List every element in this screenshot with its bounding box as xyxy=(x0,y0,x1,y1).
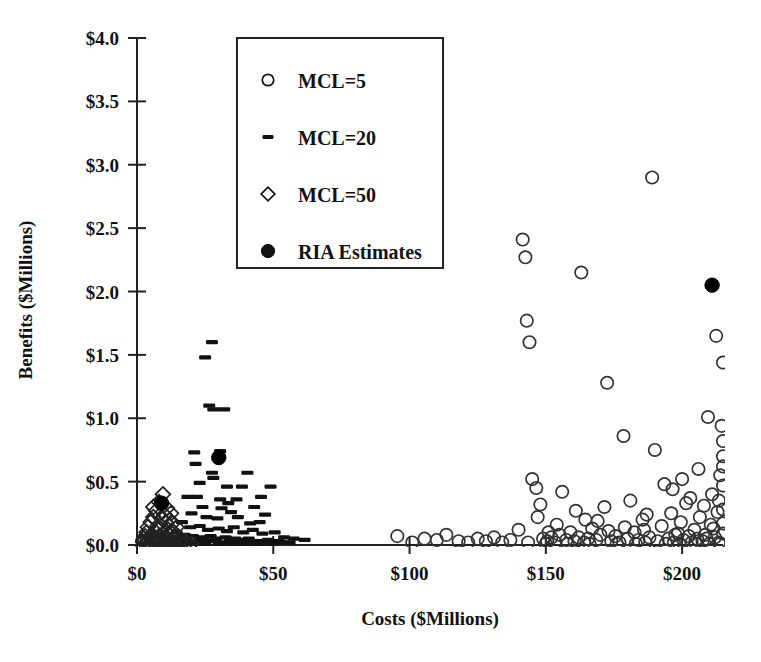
point-open-circle xyxy=(698,500,710,512)
point-filled-circle xyxy=(261,244,274,257)
point-filled-circle xyxy=(705,278,719,292)
point-dash xyxy=(211,516,223,520)
point-dash xyxy=(254,520,266,524)
legend-item-label: RIA Estimates xyxy=(298,241,422,263)
x-axis-tick-labels: $0$50$100$150$200 xyxy=(128,563,702,584)
point-dash xyxy=(191,495,203,499)
point-open-circle xyxy=(715,420,727,432)
point-dash xyxy=(206,340,218,344)
point-dash xyxy=(269,530,281,534)
point-open-circle xyxy=(705,519,717,531)
legend: MCL=5MCL=20MCL=50RIA Estimates xyxy=(237,38,443,268)
point-dash xyxy=(256,531,268,535)
point-open-circle xyxy=(717,356,729,368)
point-dash xyxy=(218,407,230,411)
point-open-circle xyxy=(619,521,631,533)
x-tick-label: $200 xyxy=(663,563,701,584)
point-dash xyxy=(221,485,233,489)
point-open-circle xyxy=(523,336,535,348)
y-tick-label: $0.0 xyxy=(86,535,119,556)
y-tick-label: $0.5 xyxy=(86,472,119,493)
point-open-circle xyxy=(440,529,452,541)
point-dash xyxy=(241,471,253,475)
point-open-circle xyxy=(579,513,591,525)
point-open-circle xyxy=(675,516,687,528)
point-open-circle xyxy=(391,530,403,542)
point-open-circle xyxy=(655,520,667,532)
y-tick-label: $3.0 xyxy=(86,155,119,176)
point-dash xyxy=(213,542,225,546)
point-dash xyxy=(221,529,233,533)
point-open-circle xyxy=(556,486,568,498)
point-dash xyxy=(299,538,311,542)
point-dash xyxy=(288,537,300,541)
point-open-circle xyxy=(598,501,610,513)
x-tick-label: $150 xyxy=(527,563,565,584)
y-tick-label: $3.5 xyxy=(86,91,119,112)
point-dash xyxy=(265,485,277,489)
point-dash xyxy=(202,528,214,532)
point-open-circle xyxy=(531,511,543,523)
point-dash xyxy=(188,450,200,454)
point-dash xyxy=(255,495,267,499)
point-dash xyxy=(199,355,211,359)
point-dash xyxy=(284,540,296,544)
scatter-chart-figure: $0.0$0.5$1.0$1.5$2.0$2.5$3.0$3.5$4.0 $0$… xyxy=(0,0,761,662)
y-tick-label: $1.0 xyxy=(86,408,119,429)
x-tick-label: $0 xyxy=(128,563,147,584)
point-open-circle xyxy=(710,330,722,342)
point-dash xyxy=(252,542,264,546)
point-filled-circle xyxy=(212,450,226,464)
point-open-circle xyxy=(649,444,661,456)
point-dash xyxy=(199,542,211,546)
point-dash xyxy=(207,407,219,411)
series-mcl-20 xyxy=(161,340,311,546)
y-tick-label: $1.5 xyxy=(86,345,119,366)
y-tick-label: $2.5 xyxy=(86,218,119,239)
point-dash xyxy=(196,505,208,509)
point-dash xyxy=(207,476,219,480)
x-axis-title: Costs ($Millions) xyxy=(361,608,499,630)
point-open-circle xyxy=(717,435,729,447)
point-dash xyxy=(201,515,213,519)
y-axis-title: Benefits ($Millions) xyxy=(15,221,37,380)
y-tick-label: $4.0 xyxy=(86,28,119,49)
point-open-circle xyxy=(512,524,524,536)
point-filled-circle xyxy=(154,496,168,510)
point-open-circle xyxy=(646,171,658,183)
point-dash xyxy=(239,542,251,546)
point-dash xyxy=(194,481,206,485)
point-open-circle xyxy=(702,411,714,423)
point-dash xyxy=(247,528,259,532)
point-dash xyxy=(203,403,215,407)
point-dash xyxy=(194,524,206,528)
point-open-circle xyxy=(694,511,706,523)
point-open-circle xyxy=(418,532,430,544)
legend-item-label: MCL=20 xyxy=(298,127,376,149)
point-dash xyxy=(226,542,238,546)
point-open-circle xyxy=(601,377,613,389)
x-tick-label: $100 xyxy=(391,563,429,584)
point-dash xyxy=(232,515,244,519)
y-tick-label: $2.0 xyxy=(86,282,119,303)
x-tick-label: $50 xyxy=(259,563,288,584)
point-dash xyxy=(230,497,242,501)
point-dash xyxy=(236,485,248,489)
y-axis-tick-labels: $0.0$0.5$1.0$1.5$2.0$2.5$3.0$3.5$4.0 xyxy=(86,28,119,556)
point-open-circle xyxy=(521,314,533,326)
point-open-circle xyxy=(676,473,688,485)
point-dash xyxy=(225,510,237,514)
series-ria-estimates xyxy=(154,278,719,510)
point-open-circle xyxy=(624,494,636,506)
point-open-circle xyxy=(617,430,629,442)
point-dash xyxy=(222,501,234,505)
point-dash xyxy=(248,505,260,509)
point-dash xyxy=(214,497,226,501)
point-dash xyxy=(259,512,271,516)
point-dash xyxy=(262,135,273,139)
point-dash xyxy=(206,471,218,475)
point-open-circle xyxy=(692,463,704,475)
point-dash xyxy=(186,511,198,515)
point-dash xyxy=(190,462,202,466)
legend-item-label: MCL=5 xyxy=(298,70,366,92)
